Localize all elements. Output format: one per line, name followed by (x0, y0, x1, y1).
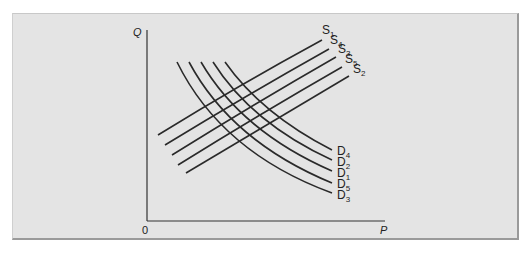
x-axis-label: P (380, 224, 388, 236)
y-axis-label: Q (133, 26, 142, 38)
demand-curve-d1 (201, 62, 332, 171)
supply-curve-s3 (172, 57, 336, 155)
curves-group (158, 40, 349, 193)
demand-curve-d5 (189, 62, 332, 183)
supply-curve-s1 (158, 40, 322, 135)
curve-labels-group: S1S4S3S5S2D4D2D1D5D3 (322, 23, 366, 204)
demand-curve-d4 (225, 62, 332, 150)
supply-label-s2: S2 (353, 62, 366, 78)
supply-curve-s2 (186, 76, 349, 173)
demand-curve-d2 (213, 62, 332, 160)
supply-demand-diagram: Q 0 P S1S4S3S5S2D4D2D1D5D3 (0, 0, 531, 254)
origin-label: 0 (142, 224, 148, 236)
